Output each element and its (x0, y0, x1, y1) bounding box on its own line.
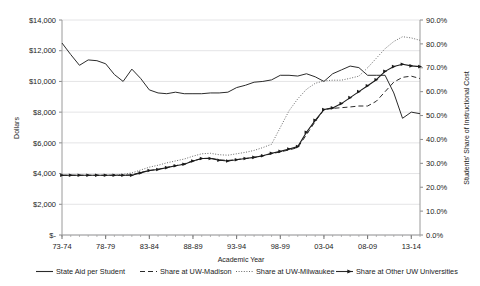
legend-item-label: Share at UW-Madison (160, 267, 232, 276)
y-axis-left-title: Dollars (13, 117, 20, 139)
y-axis-right-tick-label: 90.0% (426, 16, 448, 25)
y-axis-right-tick-label: 80.0% (426, 40, 448, 49)
y-axis-left-tick-label: $2,000 (33, 200, 56, 209)
x-axis-tick-label: 83-84 (140, 242, 159, 251)
chart-container: $-$2,000$4,000$6,000$8,000$10,000$12,000… (0, 0, 480, 286)
y-axis-right-tick-label: 60.0% (426, 87, 448, 96)
legend-item-label: Share at Other UW Universities (356, 267, 458, 276)
y-axis-right-tick-label: 40.0% (426, 135, 448, 144)
y-axis-right-tick-label: 30.0% (426, 159, 448, 168)
y-axis-right-tick-label: 70.0% (426, 63, 448, 72)
y-axis-left-tick-label: $- (49, 231, 56, 240)
y-axis-right-tick-label: 20.0% (426, 183, 448, 192)
x-axis-tick-label: 73-74 (52, 242, 71, 251)
y-axis-right-title: Students' Share of Instructional Cost (463, 71, 470, 184)
y-axis-left-tick-label: $4,000 (33, 169, 56, 178)
y-axis-right-tick-label: 10.0% (426, 207, 448, 216)
legend-item-label: State Aid per Student (56, 267, 125, 276)
x-axis-title: Academic Year (218, 256, 265, 263)
y-axis-left-tick-label: $6,000 (33, 139, 56, 148)
x-axis-tick-label: 88-89 (183, 242, 202, 251)
line-chart: $-$2,000$4,000$6,000$8,000$10,000$12,000… (0, 0, 480, 286)
x-axis-tick-label: 03-04 (314, 242, 333, 251)
x-axis-tick-label: 98-99 (271, 242, 290, 251)
x-axis-tick-label: 08-09 (358, 242, 377, 251)
y-axis-left-tick-label: $8,000 (33, 108, 56, 117)
y-axis-left-tick-label: $10,000 (29, 77, 56, 86)
y-axis-left-tick-label: $12,000 (29, 46, 56, 55)
x-axis-tick-label: 93-94 (227, 242, 246, 251)
y-axis-right-tick-label: 0.0% (426, 231, 443, 240)
x-axis-tick-label: 13-14 (402, 242, 421, 251)
legend-item-label: Share at UW-Milwaukee (256, 267, 335, 276)
y-axis-right-tick-label: 50.0% (426, 111, 448, 120)
y-axis-left-tick-label: $14,000 (29, 16, 56, 25)
x-axis-tick-label: 78-79 (96, 242, 115, 251)
